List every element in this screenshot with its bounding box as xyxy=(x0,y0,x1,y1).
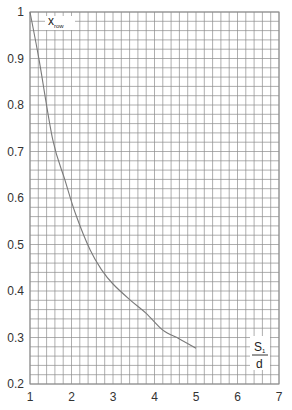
y-tick-label: 1 xyxy=(17,5,24,19)
x-tick-label: 5 xyxy=(193,390,200,404)
y-tick-label: 0.3 xyxy=(7,331,24,345)
x-tick-label: 6 xyxy=(234,390,241,404)
grid-lines xyxy=(30,12,279,384)
x-tick-label: 7 xyxy=(276,390,283,404)
y-tick-label: 0.2 xyxy=(7,377,24,391)
chart: 0.20.30.40.50.60.70.80.91 1234567 xrow S… xyxy=(0,0,292,410)
y-axis-tick-labels: 0.20.30.40.50.60.70.80.91 xyxy=(7,5,24,391)
x-tick-label: 2 xyxy=(68,390,75,404)
x-tick-label: 4 xyxy=(151,390,158,404)
x-axis-label-denominator: d xyxy=(256,357,263,371)
x-tick-label: 3 xyxy=(110,390,117,404)
x-tick-label: 1 xyxy=(27,390,34,404)
y-tick-label: 0.5 xyxy=(7,238,24,252)
x-axis-tick-labels: 1234567 xyxy=(27,390,283,404)
y-tick-label: 0.8 xyxy=(7,98,24,112)
y-tick-label: 0.7 xyxy=(7,145,24,159)
y-tick-label: 0.4 xyxy=(7,284,24,298)
y-tick-label: 0.9 xyxy=(7,52,24,66)
y-tick-label: 0.6 xyxy=(7,191,24,205)
